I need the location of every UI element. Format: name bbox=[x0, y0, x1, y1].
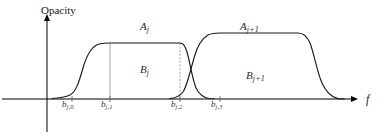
region-label-B-j: Bj bbox=[140, 64, 149, 77]
opacity-transfer-function-plot bbox=[0, 0, 388, 139]
region-label-A-j-base: A bbox=[140, 20, 147, 32]
y-axis-title: Opacity bbox=[41, 5, 76, 16]
tick-label-b-j-3: bj,3 bbox=[211, 100, 223, 110]
tick-label-b-j-1: bj,1 bbox=[101, 100, 113, 110]
x-axis-title: f bbox=[366, 93, 369, 105]
curve-a-j bbox=[52, 43, 214, 99]
region-label-A-j-plus-1-sub: j+1 bbox=[247, 25, 259, 34]
tick-label-b-j-3-sub: j,3 bbox=[216, 103, 223, 110]
tick-label-b-j-0-sub: j,0 bbox=[67, 103, 74, 110]
region-label-B-j-plus-1-base: B bbox=[246, 69, 253, 81]
tick-label-b-j-1-sub: j,1 bbox=[106, 103, 113, 110]
tick-label-b-j-0: bj,0 bbox=[62, 100, 74, 110]
region-label-B-j-sub: j bbox=[147, 68, 149, 77]
region-label-A-j-plus-1: Aj+1 bbox=[240, 21, 259, 34]
region-label-A-j-sub: j bbox=[147, 25, 149, 34]
region-label-B-j-base: B bbox=[140, 63, 147, 75]
figure-container: Opacity f Aj Aj+1 Bj Bj+1 bj,0 bj,1 bj,2… bbox=[0, 0, 388, 139]
region-label-B-j-plus-1-sub: j+1 bbox=[253, 74, 265, 83]
region-label-A-j-plus-1-base: A bbox=[240, 20, 247, 32]
region-label-B-j-plus-1: Bj+1 bbox=[246, 70, 265, 83]
region-label-A-j: Aj bbox=[140, 21, 149, 34]
tick-label-b-j-2-sub: j,2 bbox=[176, 103, 183, 110]
tick-label-b-j-2: bj,2 bbox=[171, 100, 183, 110]
